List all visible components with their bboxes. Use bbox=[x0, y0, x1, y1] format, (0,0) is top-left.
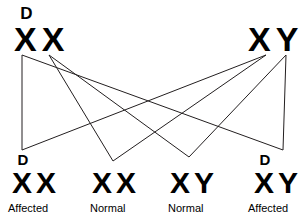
child-3-genotype: XY bbox=[170, 168, 214, 198]
child-3-allele-2: Y bbox=[194, 168, 214, 198]
mother-allele-1-symbol: X bbox=[14, 20, 37, 58]
child-2-allele-1: X bbox=[92, 168, 112, 198]
connector-father-allele2-to-child4 bbox=[283, 55, 286, 150]
child-2-genotype: XX bbox=[92, 168, 136, 198]
child-1-allele-1-superscript: D bbox=[17, 152, 28, 167]
connector-father-allele1-to-child2 bbox=[113, 55, 266, 161]
child-1-allele-1-symbol: X bbox=[12, 166, 32, 199]
father-allele-1: X bbox=[248, 22, 271, 56]
child-4-allele-2-symbol: Y bbox=[278, 166, 298, 199]
child-2-allele-2: X bbox=[116, 168, 136, 198]
child-4-allele-1-symbol: X bbox=[254, 166, 274, 199]
father-allele-1-symbol: X bbox=[248, 20, 271, 58]
child-4-allele-1-superscript: D bbox=[259, 152, 270, 167]
child-2-allele-2-symbol: X bbox=[116, 166, 136, 199]
child-3-phenotype-label: Normal bbox=[168, 203, 203, 214]
child-3-allele-1: X bbox=[170, 168, 190, 198]
parent-mother-genotype: DXX bbox=[14, 22, 64, 56]
mother-allele-2: X bbox=[42, 22, 65, 56]
parent-father-genotype: XY bbox=[248, 22, 298, 56]
father-allele-2: Y bbox=[276, 22, 299, 56]
child-2-phenotype-label: Normal bbox=[90, 203, 125, 214]
mother-allele-2-symbol: X bbox=[42, 20, 65, 58]
child-1-genotype: DXX bbox=[12, 168, 56, 198]
connector-father-allele1-to-child1 bbox=[22, 55, 266, 150]
child-4-allele-2: Y bbox=[278, 168, 298, 198]
child-1-allele-2: X bbox=[36, 168, 56, 198]
child-4-allele-1: DX bbox=[254, 168, 274, 198]
mother-allele-1-superscript: D bbox=[20, 5, 32, 22]
child-1-phenotype-label: Affected bbox=[8, 203, 48, 214]
genetic-cross-diagram: DXX XY DXX XX XY DXY Affected Normal Nor… bbox=[0, 0, 302, 224]
mother-allele-1: DX bbox=[14, 22, 37, 56]
child-3-allele-1-symbol: X bbox=[170, 166, 190, 199]
connector-father-allele2-to-child3 bbox=[189, 55, 286, 157]
connector-mother-allele2-to-child3 bbox=[49, 55, 189, 157]
child-2-allele-1-symbol: X bbox=[92, 166, 112, 199]
connector-mother-allele1-to-child4 bbox=[22, 55, 283, 150]
child-3-allele-2-symbol: Y bbox=[194, 166, 214, 199]
child-1-allele-1: DX bbox=[12, 168, 32, 198]
child-4-genotype: DXY bbox=[254, 168, 298, 198]
father-allele-2-symbol: Y bbox=[276, 20, 299, 58]
connector-mother-allele2-to-child2 bbox=[49, 55, 113, 161]
child-4-phenotype-label: Affected bbox=[248, 203, 288, 214]
child-1-allele-2-symbol: X bbox=[36, 166, 56, 199]
